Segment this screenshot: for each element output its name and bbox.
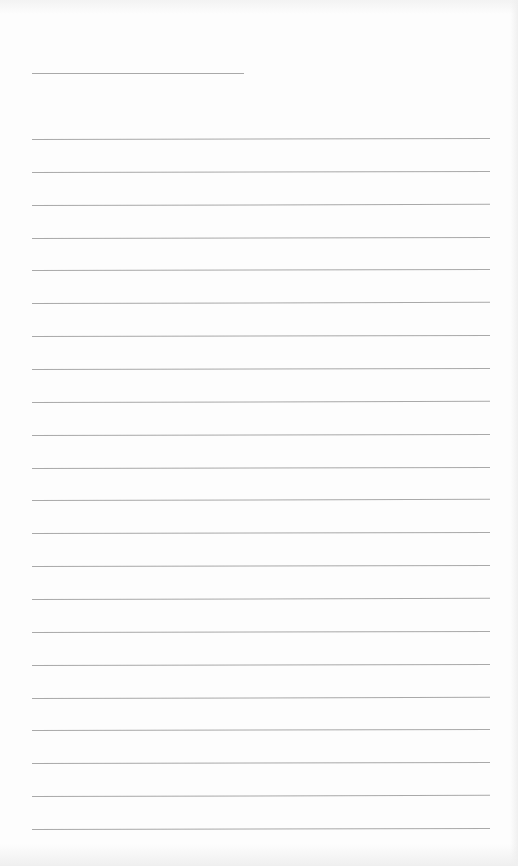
- ruled-line: [32, 565, 490, 567]
- scan-shadow-right: [510, 0, 518, 866]
- ruled-line: [32, 335, 490, 337]
- ruled-line: [32, 434, 490, 436]
- ruled-line: [32, 532, 490, 534]
- ruled-line: [32, 664, 490, 666]
- ruled-line: [32, 237, 490, 239]
- ruled-line: [32, 598, 490, 600]
- ruled-line: [32, 499, 490, 501]
- ruled-line: [32, 401, 490, 403]
- ruled-line: [32, 302, 490, 304]
- ruled-line: [32, 138, 490, 140]
- scan-shadow-top: [0, 0, 518, 14]
- ruled-line: [32, 171, 490, 173]
- ruled-line: [32, 762, 490, 764]
- ruled-line: [32, 368, 490, 370]
- header-line: [32, 73, 244, 74]
- ruled-line: [32, 795, 490, 797]
- ruled-line: [32, 269, 490, 271]
- ruled-line: [32, 631, 490, 633]
- lined-paper-page: [0, 0, 518, 866]
- ruled-line: [32, 729, 490, 731]
- ruled-line: [32, 204, 490, 206]
- ruled-line: [32, 828, 490, 830]
- ruled-line: [32, 467, 490, 469]
- ruled-line: [32, 697, 490, 699]
- scan-shadow-bottom: [0, 844, 518, 866]
